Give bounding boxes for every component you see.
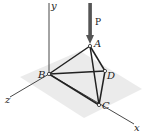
y-axis-label: y: [50, 0, 57, 11]
joint-label-A: A: [93, 38, 101, 49]
truss-diagram: y z x P A B C D: [0, 0, 146, 133]
x-axis-label: x: [134, 122, 140, 133]
z-axis-label: z: [4, 94, 11, 105]
load-arrow-P: [86, 3, 94, 44]
joint-A: [88, 44, 91, 47]
joint-B: [47, 72, 50, 75]
joint-label-C: C: [102, 100, 110, 111]
joint-label-B: B: [37, 69, 45, 80]
ground-plane: [20, 51, 142, 118]
joint-C: [97, 103, 100, 106]
load-label: P: [95, 17, 101, 27]
joint-label-D: D: [106, 70, 115, 81]
